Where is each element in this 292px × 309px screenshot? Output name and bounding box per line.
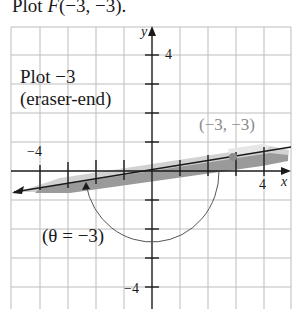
y-tick-4: 4 (165, 47, 172, 63)
point-label: (−3, −3) (199, 115, 255, 135)
x-tick-4: 4 (259, 177, 266, 193)
pencil-shape (18, 144, 289, 193)
x-tick-neg4: −4 (27, 144, 42, 160)
polar-graph (0, 0, 292, 309)
theta-label: (θ = −3) (42, 225, 104, 247)
plotted-point (229, 153, 237, 161)
y-tick-neg4: −4 (124, 281, 139, 297)
line-arrowhead (12, 186, 24, 194)
y-axis-name: y (141, 24, 147, 40)
plot-label-line2: (eraser-end) (20, 88, 111, 110)
plot-label-line1: Plot −3 (20, 66, 111, 88)
plot-label: Plot −3 (eraser-end) (20, 66, 111, 110)
x-axis-name: x (281, 174, 287, 190)
